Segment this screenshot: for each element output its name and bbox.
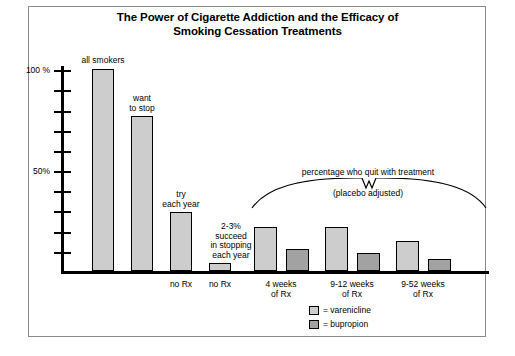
legend-label-bupropion: = bupropion — [323, 318, 368, 330]
caption-strip — [0, 347, 515, 356]
legend-swatch-varenicline-icon — [309, 306, 319, 315]
chart-title-line-1: The Power of Cigarette Addiction and the… — [0, 10, 515, 24]
chart-title-line-2: Smoking Cessation Treatments — [0, 24, 515, 38]
legend-swatch-bupropion-icon — [309, 320, 319, 329]
legend-label-varenicline: = varenicline — [323, 304, 371, 316]
chart-legend: = varenicline = bupropion — [309, 304, 371, 332]
legend-item-bupropion: = bupropion — [309, 318, 371, 330]
legend-item-varenicline: = varenicline — [309, 304, 371, 316]
figure-frame — [28, 6, 486, 337]
chart-title: The Power of Cigarette Addiction and the… — [0, 10, 515, 38]
